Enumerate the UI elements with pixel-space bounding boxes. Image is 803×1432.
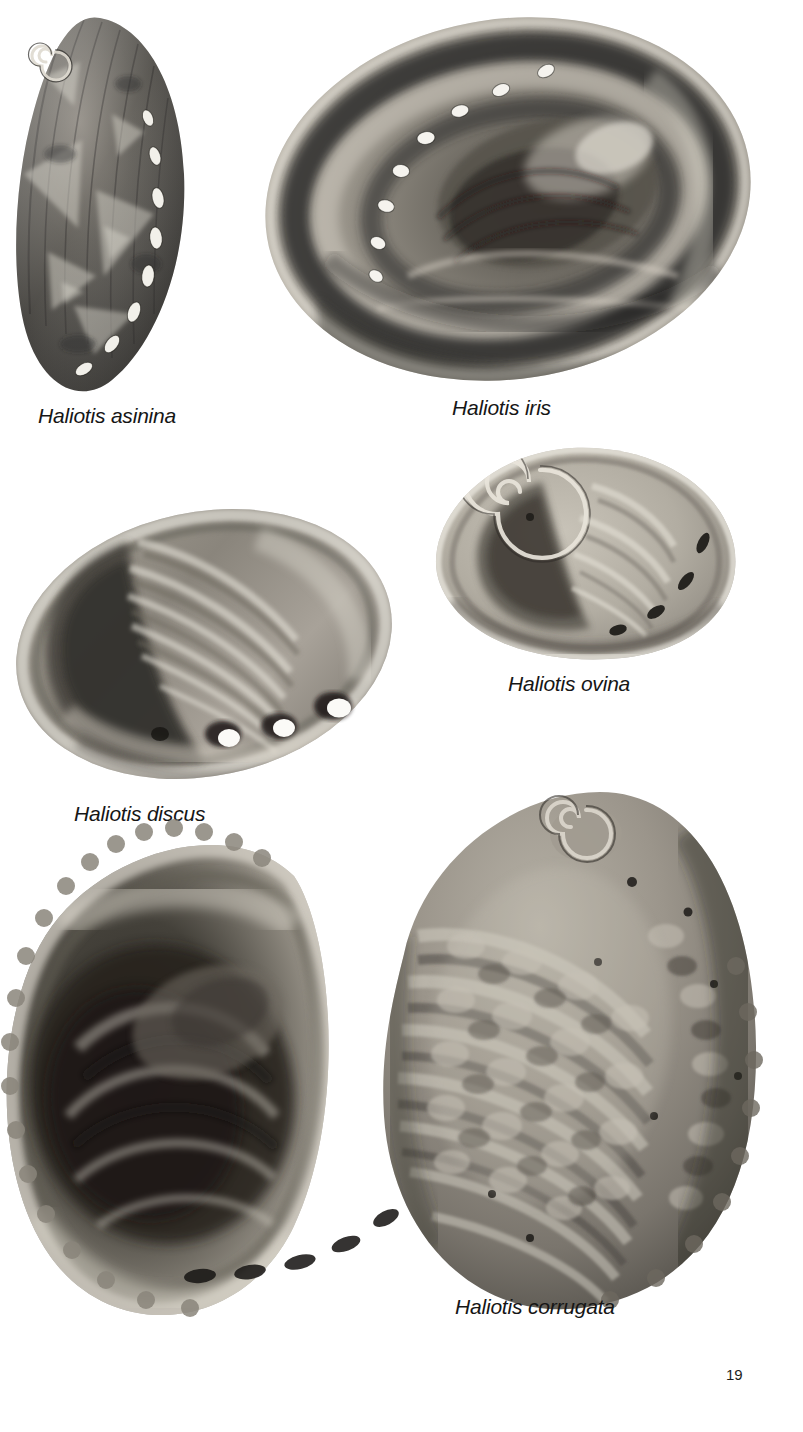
plate-page: Haliotis asinina xyxy=(0,0,803,1432)
shell-asinina-image xyxy=(8,14,198,396)
caption-ovina: Haliotis ovina xyxy=(508,672,630,696)
shell-iris-image xyxy=(258,8,758,390)
shell-corrugata-image xyxy=(0,786,769,1346)
figure-discus xyxy=(8,498,400,788)
caption-iris: Haliotis iris xyxy=(452,396,551,420)
shell-discus-image xyxy=(8,498,400,788)
page-number: 19 xyxy=(726,1366,743,1383)
figure-asinina xyxy=(8,14,198,396)
figure-corrugata xyxy=(0,786,769,1346)
corrugata-interior xyxy=(1,819,402,1317)
caption-corrugata: Haliotis corrugata xyxy=(455,1295,615,1319)
figure-ovina xyxy=(422,442,752,668)
figure-iris xyxy=(258,8,758,390)
caption-asinina: Haliotis asinina xyxy=(38,404,176,428)
corrugata-exterior xyxy=(383,792,763,1309)
shell-ovina-image xyxy=(422,442,752,668)
